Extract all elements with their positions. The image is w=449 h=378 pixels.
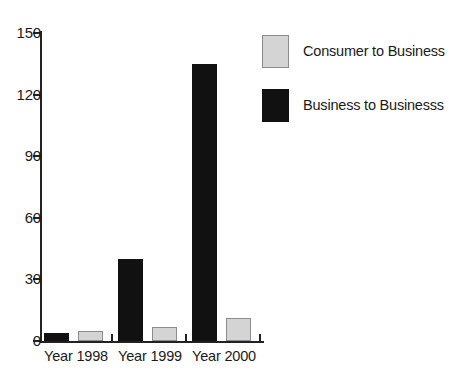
bar-consumer-to-business <box>78 331 103 341</box>
x-axis-group-label: Year 2000 <box>182 348 266 364</box>
x-axis-group-label: Year 1999 <box>108 348 192 364</box>
legend-label: Consumer to Business <box>303 43 445 59</box>
y-axis-tick-label: 30 <box>9 271 41 286</box>
x-axis-group-label: Year 1998 <box>34 348 118 364</box>
plot-area <box>40 33 262 341</box>
legend-swatch-consumer-to-business <box>262 35 289 68</box>
chart-legend: Consumer to BusinessBusiness to Business… <box>262 24 449 132</box>
y-axis-tick-label: 90 <box>9 148 41 163</box>
x-axis-tick <box>185 334 187 342</box>
y-axis-tick-label: 0 <box>9 333 41 348</box>
x-axis-tick <box>111 334 113 342</box>
legend-item: Business to Businesss <box>262 78 449 132</box>
bar-chart-figure: 0306090120150 Year 1998Year 1999Year 200… <box>0 0 449 378</box>
bar-consumer-to-business <box>226 318 251 341</box>
x-axis-line <box>40 341 264 343</box>
bar-business-to-business <box>192 64 217 341</box>
legend-item: Consumer to Business <box>262 24 449 78</box>
x-axis-tick <box>259 334 261 342</box>
y-axis-tick-label: 60 <box>9 210 41 225</box>
legend-label: Business to Businesss <box>303 97 444 113</box>
bar-consumer-to-business <box>152 327 177 341</box>
bar-business-to-business <box>118 259 143 341</box>
y-axis-tick-label: 120 <box>9 87 41 102</box>
bar-business-to-business <box>44 333 69 341</box>
y-axis-tick-label: 150 <box>9 25 41 40</box>
legend-swatch-business-to-business <box>262 89 289 122</box>
